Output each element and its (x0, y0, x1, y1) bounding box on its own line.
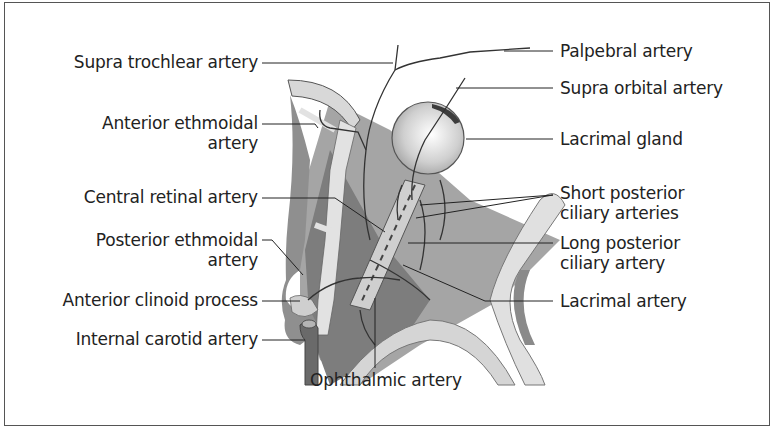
label-supra-trochlear-artery: Supra trochlear artery (74, 52, 258, 72)
label-line: Long posterior (560, 233, 680, 253)
label-line: Posterior ethmoidal (96, 230, 258, 250)
label-lacrimal-artery: Lacrimal artery (560, 291, 687, 311)
label-supra-orbital-artery: Supra orbital artery (560, 78, 723, 98)
label-ophthalmic-artery: Ophthalmic artery (310, 370, 462, 390)
eyeball (392, 102, 464, 174)
label-line: ciliary artery (560, 253, 680, 273)
label-line: Short posterior (560, 183, 684, 203)
label-short-posterior-ciliary-arteries: Short posterior ciliary arteries (560, 183, 684, 223)
label-anterior-clinoid-process: Anterior clinoid process (63, 290, 258, 310)
label-posterior-ethmoidal-artery: Posterior ethmoidal artery (96, 230, 258, 270)
label-lacrimal-gland: Lacrimal gland (560, 129, 683, 149)
label-line: artery (96, 250, 258, 270)
label-line: ciliary arteries (560, 203, 684, 223)
label-internal-carotid-artery: Internal carotid artery (76, 329, 258, 349)
label-long-posterior-ciliary-artery: Long posterior ciliary artery (560, 233, 680, 273)
label-palpebral-artery: Palpebral artery (560, 41, 693, 61)
label-central-retinal-artery: Central retinal artery (84, 187, 258, 207)
label-anterior-ethmoidal-artery: Anterior ethmoidal artery (102, 113, 258, 153)
label-line: artery (102, 133, 258, 153)
label-line: Anterior ethmoidal (102, 113, 258, 133)
